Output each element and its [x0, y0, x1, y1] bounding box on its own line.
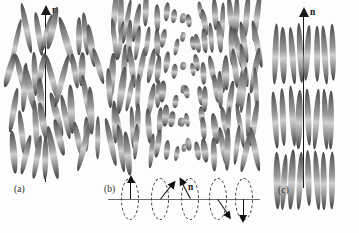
lc-rod	[87, 87, 96, 135]
lc-rod	[279, 27, 287, 84]
lc-rod	[319, 25, 329, 85]
panel-label-c: (c)	[278, 186, 289, 196]
lc-rod	[163, 2, 171, 22]
lc-rod	[287, 27, 297, 85]
lc-rod	[200, 138, 210, 162]
panel-c-smectic: n (c)	[258, 0, 359, 233]
lc-rod	[329, 24, 337, 81]
lc-rod	[158, 81, 166, 103]
lc-rod-foreshortened	[180, 31, 187, 41]
lc-rod	[8, 131, 18, 175]
lc-rod	[279, 88, 287, 146]
lc-rod-foreshortened	[179, 61, 186, 70]
lc-rod	[312, 88, 322, 149]
panel-a-nematic: n (a)	[0, 0, 110, 233]
lc-rod	[295, 90, 303, 149]
lc-rod	[94, 117, 100, 160]
lc-rod	[311, 150, 321, 210]
lc-rod	[171, 64, 179, 79]
lc-rod	[183, 85, 191, 99]
lc-rod	[199, 116, 207, 139]
director-twist-diagram: n	[108, 172, 260, 222]
twist-arrow-shaft	[243, 199, 244, 216]
lc-rod	[173, 146, 181, 162]
lc-rod	[75, 17, 81, 55]
panel-b-cholesteric: (b) n	[108, 0, 258, 233]
lc-rod	[328, 90, 335, 149]
lc-rod	[153, 129, 163, 158]
lc-rod	[287, 149, 297, 209]
director-label-c: n	[310, 8, 315, 18]
lc-rod	[170, 9, 177, 23]
lc-rod	[163, 140, 171, 160]
figure-canvas: n (a) (b) n n (c)	[0, 0, 359, 233]
lc-rod	[168, 110, 176, 127]
twist-arrow-shaft	[130, 182, 131, 199]
lc-rod	[200, 62, 207, 85]
lc-rod	[304, 89, 312, 146]
lc-rod	[142, 0, 149, 27]
lc-rod	[304, 150, 312, 207]
lc-rod	[328, 151, 335, 209]
lc-rod	[224, 128, 232, 171]
lc-rod	[271, 23, 279, 84]
lc-rod	[185, 14, 193, 28]
director-arrowhead	[299, 7, 309, 17]
panel-label-a: (a)	[14, 185, 25, 195]
lc-rod	[159, 28, 168, 47]
lc-rod	[162, 51, 171, 73]
twist-arrow-head	[127, 175, 135, 183]
lc-rod	[321, 152, 327, 210]
lc-rod	[314, 26, 320, 82]
director-arrowhead	[41, 5, 51, 15]
lc-rod	[202, 86, 208, 112]
lc-rod	[172, 94, 179, 108]
twist-arrow-head	[239, 216, 247, 224]
twist-ellipse	[235, 178, 253, 220]
director-label-b: n	[188, 183, 193, 193]
lc-rod	[172, 38, 180, 55]
lc-rod	[270, 91, 280, 148]
